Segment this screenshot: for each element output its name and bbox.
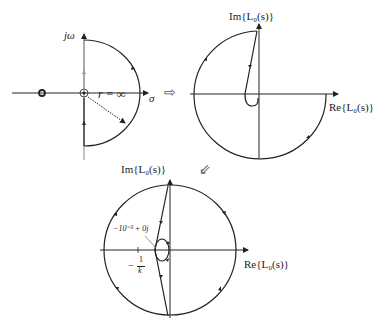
- im-axis-2-label: Im{L₀(s)}: [121, 163, 166, 175]
- re-axis-2-label: Re{L₀(s)}: [244, 258, 289, 270]
- nyquist-curve-2-wedge: [155, 186, 168, 316]
- nyquist-diagram-figure: [0, 0, 388, 326]
- down-left-arrow-icon: ⇙: [199, 161, 211, 178]
- im-axis-1-label: Im{L₀(s)}: [229, 10, 274, 22]
- annotation-leader: [145, 236, 156, 248]
- nyquist-plot-1: [190, 24, 338, 159]
- sigma-axis-label: σ: [149, 92, 154, 104]
- nyquist-plot-2: [100, 180, 248, 318]
- right-arrow-icon: ⇨: [164, 84, 176, 101]
- s-plane-diagram: [12, 34, 148, 160]
- jw-axis-label: jω: [64, 29, 75, 41]
- point-annotation: −10⁻³ + 0j: [113, 224, 148, 233]
- nyquist-curve-1-inner: [245, 31, 258, 106]
- radius-label: r = ∞: [98, 87, 125, 102]
- nyquist-curve-1-outer: [194, 31, 326, 159]
- re-axis-1-label: Re{L₀(s)}: [329, 101, 374, 113]
